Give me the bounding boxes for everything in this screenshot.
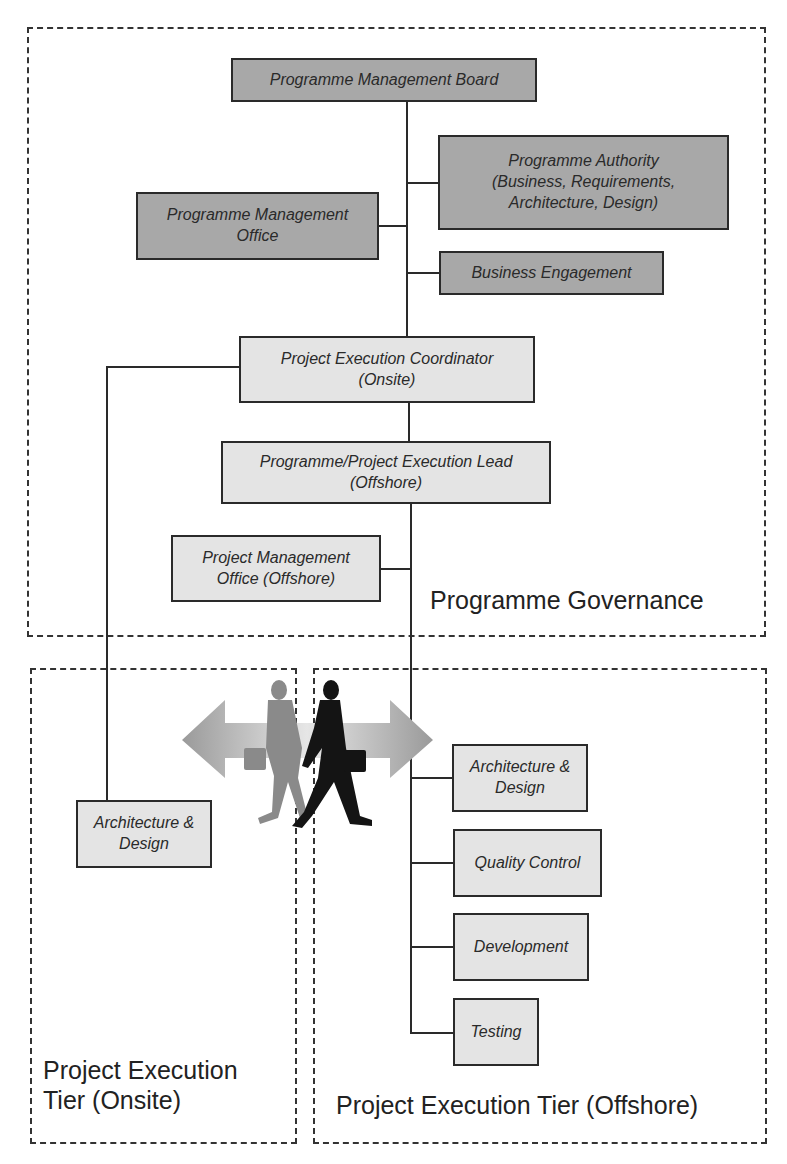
quality-control: Quality Control — [453, 829, 602, 897]
connector-coordinator-lead — [408, 403, 410, 441]
connector-quality — [410, 862, 453, 864]
project-management-office-offshore: Project Management Office (Offshore) — [171, 535, 381, 602]
gray-businessman-icon — [244, 680, 308, 824]
offshore-architecture-design: Architecture & Design — [452, 744, 588, 812]
project-execution-coordinator: Project Execution Coordinator (Onsite) — [239, 336, 535, 403]
connector-development — [410, 946, 453, 948]
programme-project-execution-lead: Programme/Project Execution Lead (Offsho… — [221, 441, 551, 504]
programme-authority: Programme Authority (Business, Requireme… — [438, 135, 729, 230]
business-engagement: Business Engagement — [439, 251, 664, 295]
businessmen-walking-icon — [180, 678, 435, 833]
connector-project-pmo — [380, 568, 411, 570]
connector-testing — [410, 1032, 453, 1034]
development: Development — [453, 913, 589, 981]
governance-region — [27, 27, 766, 637]
connector-onsite-spine — [106, 366, 108, 806]
connector-engagement — [406, 272, 440, 274]
testing: Testing — [453, 998, 539, 1066]
connector-main-spine — [406, 100, 408, 338]
connector-coordinator-onsite — [106, 366, 240, 368]
onsite-label: Project Execution Tier (Onsite) — [43, 1055, 238, 1115]
programme-management-office: Programme Management Office — [136, 192, 379, 260]
offshore-label: Project Execution Tier (Offshore) — [336, 1090, 698, 1120]
programme-management-board: Programme Management Board — [231, 58, 537, 102]
connector-authority — [406, 182, 440, 184]
governance-label: Programme Governance — [430, 585, 704, 615]
connector-pmo — [378, 225, 407, 227]
